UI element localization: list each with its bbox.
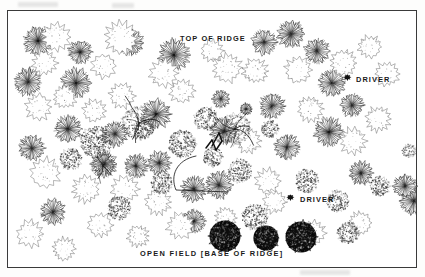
tree-canopy-radial	[274, 135, 301, 160]
canopy-map	[8, 11, 416, 267]
tree-canopy-radial	[211, 90, 230, 108]
tree-canopy-radial	[251, 30, 279, 57]
tree-canopy-lobed	[24, 93, 52, 122]
tree-canopy-radial	[180, 176, 206, 203]
scan-smudge	[18, 2, 58, 7]
tree-canopy-radial	[19, 135, 47, 161]
tree-canopy-lobed	[241, 59, 269, 83]
tree-canopy-lobed	[341, 126, 369, 156]
tree-canopy-lobed	[82, 99, 107, 123]
tree-canopy-radial	[276, 20, 305, 48]
tree-canopy-radial	[40, 198, 65, 226]
tree-canopy-lobed	[254, 167, 281, 193]
label-driver-1: DRIVER	[356, 76, 391, 83]
tree-canopy-radial	[349, 160, 374, 185]
label-driver-2: DRIVER	[300, 196, 335, 203]
tree-canopy-lobed	[284, 56, 313, 83]
tree-canopy-radial	[303, 38, 330, 64]
tree-canopy-stipple	[228, 158, 252, 184]
tree-canopy-radial	[67, 41, 93, 64]
driver-marker-icon	[286, 194, 295, 202]
tree-canopy-lobed	[71, 174, 99, 204]
scan-smudge	[300, 270, 350, 275]
tree-canopy-stipple	[261, 120, 280, 138]
tree-canopy-radial	[54, 115, 83, 143]
tree-canopy-stipple	[296, 169, 320, 194]
tree-canopy-lobed	[30, 156, 61, 189]
label-open-field: OPEN FIELD [BASE OF RIDGE]	[140, 250, 283, 257]
tree-canopy-lobed	[365, 107, 392, 134]
tree-canopy-lobed	[357, 35, 382, 60]
tree-canopy-radial	[399, 186, 416, 216]
tree-canopy-stipple	[59, 148, 82, 170]
tree-canopy-dark	[208, 220, 242, 252]
driver-marker-icon	[343, 74, 352, 82]
tree-canopy-lobed	[108, 83, 137, 110]
tree-canopy-stipple	[203, 146, 224, 168]
tree-canopy-lobed	[347, 211, 372, 237]
tree-canopy-radial	[340, 93, 366, 117]
tree-canopy-dark	[253, 225, 279, 251]
tree-canopy-lobed	[298, 97, 325, 123]
tree-canopy-radial	[205, 170, 234, 199]
tree-canopy-stipple	[168, 130, 197, 159]
tree-canopy-radial	[148, 151, 172, 176]
tree-canopy-stipple	[369, 175, 391, 196]
tree-canopy-radial	[125, 153, 149, 177]
figure-page: TOP OF RIDGE DRIVER DRIVER OPEN FIELD [B…	[0, 0, 425, 277]
tree-canopy-lobed	[126, 226, 149, 248]
tree-canopy-lobed	[52, 236, 77, 261]
tree-canopy-lobed	[144, 189, 171, 216]
tree-canopy-lobed	[90, 54, 116, 80]
tree-canopy-radial	[260, 94, 287, 119]
tree-canopy-lobed	[87, 213, 114, 238]
tree-canopy-stipple	[151, 172, 173, 195]
tree-canopy-radial	[313, 117, 345, 147]
canopy-clip-area	[8, 11, 416, 267]
label-top-of-ridge: TOP OF RIDGE	[180, 35, 246, 42]
tree-canopy-stipple	[193, 107, 218, 131]
scan-smudge	[112, 3, 134, 8]
tree-canopy-radial	[209, 116, 239, 144]
tree-canopy-lobed	[16, 219, 43, 249]
tree-canopy-lobed	[104, 19, 138, 56]
